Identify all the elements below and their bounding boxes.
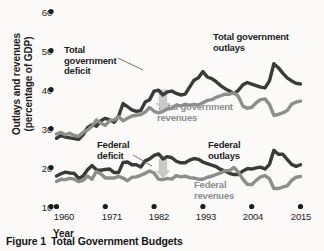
y-tick-dot-30 [48, 126, 53, 131]
y-tick-dot-60 [48, 9, 53, 14]
y-tick-dot-40 [48, 87, 53, 92]
series-line-total-government-outlays [57, 64, 301, 140]
series-lines [57, 64, 301, 189]
y-tick-dot-20 [48, 165, 53, 170]
leader-line-total-deficit [118, 58, 143, 70]
figure-title: Total Government Budgets [51, 235, 183, 247]
x-tick-dot-1960 [54, 204, 59, 209]
chart-plot-area [0, 0, 324, 251]
series-line-total-government-revenues [57, 93, 301, 137]
figure-number: Figure 1 [6, 235, 46, 247]
x-tick-dot-1993 [200, 204, 205, 209]
x-tick-dot-1971 [103, 204, 108, 209]
series-line-federal-revenues [57, 168, 301, 189]
x-tick-dot-1982 [152, 204, 157, 209]
x-tick-dot-2015 [298, 204, 303, 209]
figure-container: 60 50 40 30 20 10 1960 1971 1982 1993 20… [0, 0, 324, 251]
x-tick-dot-2004 [249, 204, 254, 209]
figure-caption: Figure 1Total Government Budgets [6, 235, 183, 247]
y-tick-dot-50 [48, 48, 53, 53]
y-tick-dot-10 [48, 204, 53, 209]
deficit-arrows [155, 90, 170, 179]
